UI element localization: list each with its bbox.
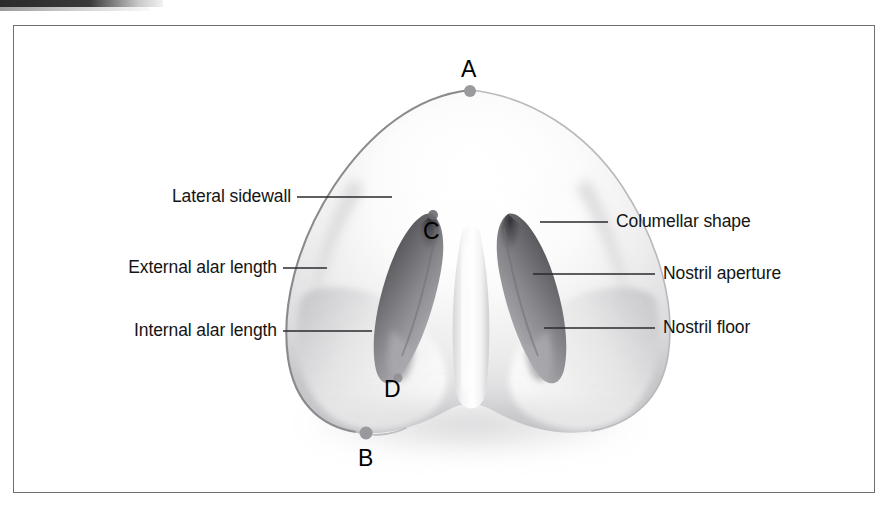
label-columellar-shape-text: Columellar shape: [616, 213, 751, 231]
label-nostril-floor-text: Nostril floor: [663, 319, 750, 337]
point-b-dot: [360, 427, 373, 440]
point-d-label: D: [384, 378, 401, 401]
figure-root: Lateral sidewall External alar length In…: [0, 0, 888, 509]
anatomy-illustration: [0, 0, 888, 509]
point-a-label: A: [461, 58, 476, 81]
label-external-alar-length-text: External alar length: [73, 259, 277, 277]
label-internal-alar-length-text: Internal alar length: [73, 322, 277, 340]
point-a-dot: [464, 85, 476, 97]
point-c-label: C: [423, 220, 440, 243]
label-nostril-aperture-text: Nostril aperture: [663, 265, 781, 283]
point-b-label: B: [358, 447, 373, 470]
label-lateral-sidewall-text: Lateral sidewall: [93, 188, 291, 206]
